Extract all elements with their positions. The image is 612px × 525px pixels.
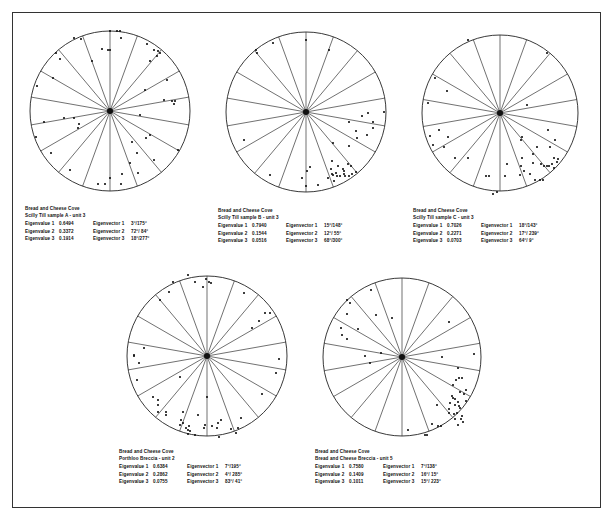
sector-line bbox=[402, 297, 453, 358]
data-point bbox=[372, 121, 374, 123]
data-point bbox=[182, 422, 184, 424]
sector-line bbox=[402, 357, 453, 418]
data-point bbox=[346, 299, 348, 301]
data-point bbox=[52, 77, 54, 79]
data-point bbox=[275, 372, 277, 374]
eigenvector-label: Eigenvector 2 bbox=[383, 471, 421, 479]
data-point bbox=[523, 170, 525, 172]
data-point bbox=[458, 377, 460, 379]
data-point bbox=[269, 174, 271, 176]
data-point bbox=[457, 367, 459, 369]
data-point bbox=[159, 299, 161, 301]
data-point bbox=[107, 49, 109, 51]
data-point bbox=[429, 135, 431, 137]
data-point bbox=[449, 402, 451, 404]
data-point bbox=[440, 425, 442, 427]
data-point bbox=[521, 136, 523, 138]
eigenvalue-value: 0.6494 bbox=[59, 220, 93, 228]
caption-plot-c: Bread and Cheese Cove Scilly Till sample… bbox=[413, 207, 559, 245]
data-point bbox=[340, 327, 342, 329]
eigenvalue-value: 0.6384 bbox=[153, 463, 187, 471]
sector-line bbox=[375, 283, 402, 357]
data-point bbox=[473, 353, 475, 355]
data-point bbox=[332, 142, 334, 144]
data-point bbox=[337, 165, 339, 167]
data-point bbox=[258, 320, 260, 322]
caption-plot-d: Bread and Cheese Cove Porthloo Breccia -… bbox=[119, 448, 265, 486]
data-point bbox=[149, 134, 151, 136]
eigenvector-value: 64°/ 9° bbox=[519, 237, 559, 245]
sector-line bbox=[306, 37, 333, 112]
data-point bbox=[370, 289, 372, 291]
data-point bbox=[194, 434, 196, 436]
caption-site: Bread and Cheese Cove bbox=[315, 448, 461, 455]
data-point bbox=[165, 414, 167, 416]
data-point bbox=[309, 166, 311, 168]
data-point bbox=[372, 127, 374, 129]
data-point bbox=[452, 384, 454, 386]
sector-line bbox=[375, 357, 402, 431]
data-point bbox=[91, 60, 93, 62]
eigenvalue-value: 0.7026 bbox=[447, 222, 481, 230]
data-point bbox=[137, 172, 139, 174]
data-point bbox=[218, 436, 220, 438]
caption-sample: Bread and Cheese Breccia - unit 5 bbox=[315, 455, 461, 462]
sector-line bbox=[450, 53, 500, 113]
data-point bbox=[351, 173, 353, 175]
data-point bbox=[461, 377, 463, 379]
data-point bbox=[454, 398, 456, 400]
eigenvector-label: Eigenvector 3 bbox=[286, 237, 324, 245]
data-point bbox=[427, 102, 429, 104]
data-point bbox=[551, 163, 553, 165]
eigenvector-value: 7°/138° bbox=[421, 463, 461, 471]
data-point bbox=[467, 157, 469, 159]
data-point bbox=[339, 175, 341, 177]
eigenvalue-value: 0.0516 bbox=[252, 237, 286, 245]
data-point bbox=[348, 175, 350, 177]
data-point bbox=[346, 338, 348, 340]
data-point bbox=[542, 179, 544, 181]
data-point bbox=[305, 39, 307, 41]
data-point bbox=[163, 99, 165, 101]
data-point bbox=[465, 389, 467, 391]
caption-site: Bread and Cheese Cove bbox=[119, 448, 265, 455]
sector-line bbox=[110, 111, 137, 186]
data-point bbox=[80, 38, 82, 40]
eigenvector-value: 4°/ 285° bbox=[225, 471, 265, 479]
data-point bbox=[119, 30, 121, 32]
data-point bbox=[520, 165, 522, 167]
data-point bbox=[341, 334, 343, 336]
data-point bbox=[109, 30, 111, 32]
data-point bbox=[149, 60, 151, 62]
data-point bbox=[197, 414, 199, 416]
data-point bbox=[332, 174, 334, 176]
data-point bbox=[346, 313, 348, 315]
data-point bbox=[159, 52, 161, 54]
data-point bbox=[171, 100, 173, 102]
data-point bbox=[526, 104, 528, 106]
data-point bbox=[461, 415, 463, 417]
data-point bbox=[463, 393, 465, 395]
eigenvalue-value: 0.2862 bbox=[153, 471, 187, 479]
sector-line bbox=[180, 281, 207, 356]
center-point bbox=[204, 353, 210, 359]
data-point bbox=[407, 429, 409, 431]
eigenvalue-label: Eigenvalue 1 bbox=[25, 220, 59, 228]
data-point bbox=[208, 281, 210, 283]
data-point bbox=[261, 393, 263, 395]
eigenvector-label: Eigenvector 1 bbox=[286, 222, 324, 230]
data-point bbox=[180, 419, 182, 421]
data-point bbox=[166, 79, 168, 81]
sector-line bbox=[306, 51, 357, 112]
data-point bbox=[504, 175, 506, 177]
data-point bbox=[35, 136, 37, 138]
data-point bbox=[317, 184, 319, 186]
data-point bbox=[453, 413, 455, 415]
data-point bbox=[529, 173, 531, 175]
sector-line bbox=[279, 112, 306, 187]
eigenvector-label: Eigenvector 1 bbox=[383, 463, 421, 471]
data-point bbox=[153, 49, 155, 51]
data-point bbox=[460, 418, 462, 420]
data-point bbox=[255, 49, 257, 51]
center-point bbox=[303, 109, 309, 115]
